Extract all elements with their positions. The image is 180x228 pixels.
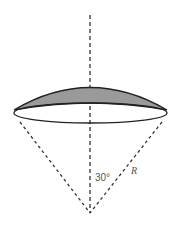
radius-label: R [131,166,137,176]
angle-label: 30° [95,173,110,183]
spherical-cap-diagram [0,0,180,228]
radius-line-left [20,122,90,213]
radius-line-right [90,122,162,213]
